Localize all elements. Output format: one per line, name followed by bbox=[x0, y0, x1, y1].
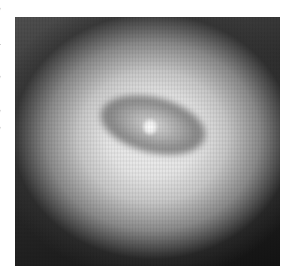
text-fragment: e bbox=[0, 0, 8, 17]
text-fragment: s bbox=[0, 17, 8, 34]
text-fragment: l bbox=[0, 51, 8, 68]
cropped-adjacent-text: e s a l e r e e bbox=[0, 0, 8, 277]
text-fragment: r bbox=[0, 85, 8, 102]
film-grain bbox=[15, 17, 280, 266]
galaxy-photograph bbox=[15, 17, 280, 266]
text-fragment: e bbox=[0, 102, 8, 119]
text-fragment: e bbox=[0, 119, 8, 136]
text-fragment: e bbox=[0, 68, 8, 85]
text-fragment: a bbox=[0, 34, 8, 51]
